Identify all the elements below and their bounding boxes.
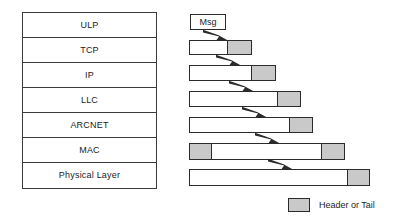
message-box: Msg: [190, 14, 226, 30]
physical-pdu: [189, 169, 370, 186]
legend: Header or Tail: [288, 198, 375, 212]
llc-pdu-header-block: [278, 91, 301, 107]
mac-pdu: [189, 143, 345, 160]
arcnet-pdu-payload-block: [189, 117, 290, 133]
arrow-head: [203, 30, 228, 41]
ip-pdu-payload-block: [189, 65, 252, 81]
tcp-pdu-header-block: [228, 40, 252, 55]
ip-pdu-header-block: [252, 65, 276, 81]
pdu-area: Msg: [0, 0, 393, 200]
arcnet-pdu-header-block: [290, 117, 313, 133]
mac-pdu-header-block: [322, 143, 345, 160]
legend-swatch-header-or-tail: [288, 198, 310, 212]
mac-pdu-header-block: [189, 143, 212, 160]
message-label: Msg: [199, 18, 216, 27]
arrow-msg-to-tcp: [203, 29, 229, 41]
physical-pdu-payload-block: [189, 169, 348, 186]
mac-pdu-payload-block: [212, 143, 322, 160]
tcp-pdu: [189, 40, 252, 55]
arcnet-pdu: [189, 117, 313, 133]
arrow-arcnet-to-mac: [255, 132, 281, 144]
arrow-head: [255, 133, 280, 144]
arrow-head: [242, 107, 267, 118]
encapsulation-diagram: ULPTCPIPLLCARCNETMACPhysical Layer Msg H…: [0, 0, 393, 223]
arrow-head: [216, 55, 241, 66]
physical-pdu-header-block: [348, 169, 370, 186]
ip-pdu: [189, 65, 276, 81]
arrow-ip-to-llc: [229, 80, 255, 92]
arrow-mac-to-physical: [268, 158, 294, 170]
legend-label: Header or Tail: [319, 201, 375, 210]
llc-pdu: [189, 91, 301, 107]
arrow-llc-to-arcnet: [242, 106, 268, 118]
arrow-head: [229, 81, 254, 92]
arrow-tcp-to-ip: [216, 54, 242, 66]
tcp-pdu-payload-block: [189, 40, 228, 55]
arrow-head: [268, 159, 293, 170]
llc-pdu-payload-block: [189, 91, 278, 107]
